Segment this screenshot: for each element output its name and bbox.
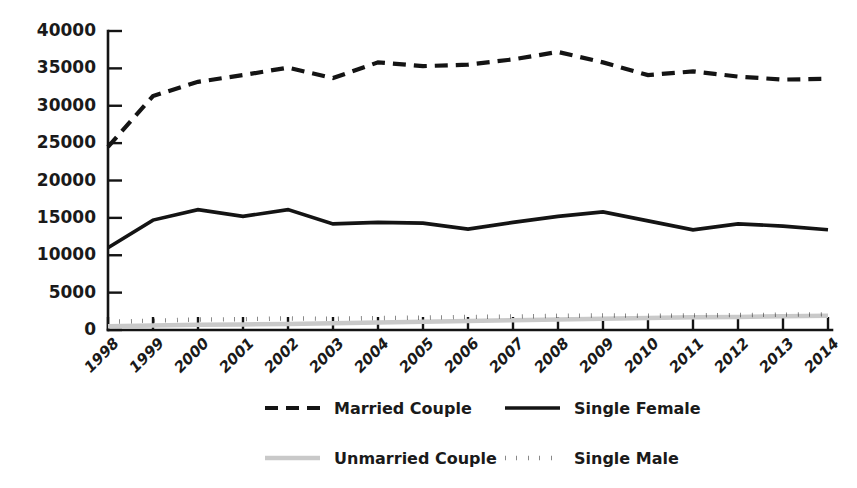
x-axis-tick-label: 2002 xyxy=(261,334,303,376)
legend-label: Married Couple xyxy=(334,399,472,418)
x-axis-tick-label: 2005 xyxy=(396,334,438,376)
y-axis-tick-label: 35000 xyxy=(37,57,96,77)
legend-item[interactable]: Unmarried Couple xyxy=(265,449,497,468)
y-axis-tick-label: 40000 xyxy=(37,20,96,40)
y-axis-tick-label: 25000 xyxy=(37,132,96,152)
x-axis-tick-label: 1999 xyxy=(126,334,168,376)
series-line-married-couple xyxy=(108,52,828,147)
x-axis-tick-label: 2006 xyxy=(441,334,483,376)
legend-item[interactable]: Single Male xyxy=(505,449,679,468)
x-axis-tick-label: 2001 xyxy=(216,334,258,376)
y-axis-tick-label: 15000 xyxy=(37,207,96,227)
x-axis-tick-label: 2011 xyxy=(666,334,708,376)
legend-label: Single Female xyxy=(574,399,701,418)
x-axis-tick-label: 2008 xyxy=(531,334,573,376)
x-axis-tick-label: 2009 xyxy=(576,334,618,376)
x-axis-tick-label: 2003 xyxy=(306,334,348,376)
legend-label: Single Male xyxy=(574,449,679,468)
series-layer xyxy=(108,52,828,326)
x-axis-tick-label: 2010 xyxy=(621,334,663,376)
y-axis: 0500010000150002000025000300003500040000 xyxy=(37,20,122,339)
x-axis-tick-label: 2014 xyxy=(801,334,843,376)
x-axis-tick-label: 1998 xyxy=(81,334,123,376)
x-axis-tick-label: 2012 xyxy=(711,334,753,376)
y-axis-tick-label: 5000 xyxy=(49,282,96,302)
chart-container: 0500010000150002000025000300003500040000… xyxy=(0,0,857,488)
line-chart: 0500010000150002000025000300003500040000… xyxy=(0,0,857,488)
y-axis-tick-label: 0 xyxy=(84,319,96,339)
legend-item[interactable]: Married Couple xyxy=(265,399,472,418)
y-axis-tick-label: 10000 xyxy=(37,244,96,264)
x-axis-tick-label: 2000 xyxy=(171,334,213,376)
series-line-single-female xyxy=(108,210,828,248)
legend-label: Unmarried Couple xyxy=(334,449,497,468)
y-axis-tick-label: 30000 xyxy=(37,95,96,115)
chart-legend: Married CoupleSingle FemaleUnmarried Cou… xyxy=(265,399,701,468)
x-axis-tick-label: 2007 xyxy=(486,334,529,377)
x-axis-tick-label: 2013 xyxy=(756,334,798,376)
x-axis-tick-label: 2004 xyxy=(351,334,393,376)
legend-item[interactable]: Single Female xyxy=(505,399,701,418)
y-axis-tick-label: 20000 xyxy=(37,170,96,190)
